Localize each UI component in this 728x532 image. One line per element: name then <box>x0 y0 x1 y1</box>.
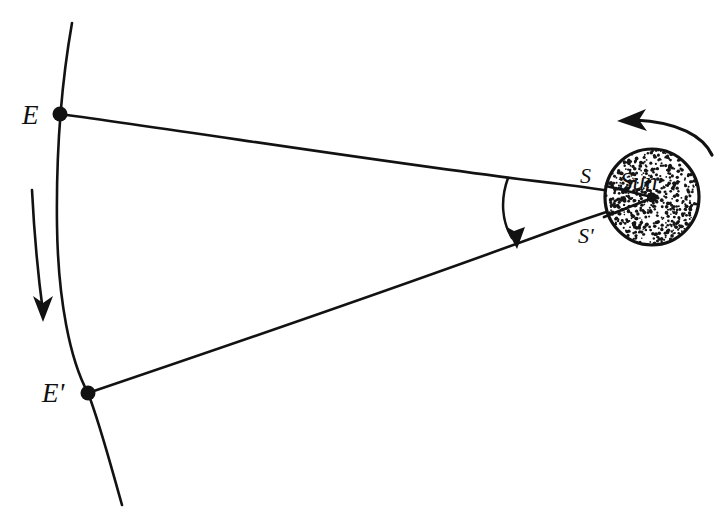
astronomy-diagram: E E' S S' Sun <box>0 0 728 532</box>
sun-body-group <box>604 149 699 246</box>
sun-stipple-dot <box>631 197 633 199</box>
sun-stipple-dot <box>664 186 666 188</box>
sun-stipple-dot <box>639 217 641 219</box>
sun-stipple-dot <box>661 205 664 208</box>
sun-stipple-dot <box>670 234 674 238</box>
sun-stipple-dot <box>623 165 625 167</box>
sun-stipple-dot <box>657 154 659 156</box>
sun-stipple-dot <box>679 208 682 211</box>
sun-stipple-dot <box>653 224 657 228</box>
label-earth-E: E <box>21 100 39 130</box>
sun-stipple-dot <box>649 207 651 209</box>
sun-stipple-dot <box>665 176 667 178</box>
sun-stipple-dot <box>671 175 673 177</box>
sun-stipple-dot <box>613 192 616 195</box>
sun-stipple-dot <box>649 209 653 213</box>
sun-stipple-dot <box>670 180 672 182</box>
sun-stipple-dot <box>626 230 629 233</box>
sun-stipple-dot <box>665 196 668 199</box>
sun-stipple-dot <box>645 223 648 226</box>
sun-stipple-dot <box>674 226 677 229</box>
earth-orbit-direction-arrow <box>32 190 53 322</box>
sun-stipple-dot <box>654 208 656 210</box>
sun-stipple-dot <box>648 225 651 228</box>
sun-stipple-dot <box>685 223 688 226</box>
sun-stipple-dot <box>688 211 691 214</box>
sun-stipple-dot <box>673 208 675 210</box>
sun-stipple-dot <box>673 195 676 198</box>
sun-stipple-dot <box>686 205 689 208</box>
sun-stipple-dot <box>609 201 612 204</box>
sun-stipple-dot <box>671 225 673 227</box>
sun-stipple-dot <box>672 229 674 231</box>
sun-stipple-dot <box>671 198 673 200</box>
sun-stipple-dot <box>690 217 692 219</box>
sun-stipple-dot <box>610 206 612 208</box>
sun-stipple-dot <box>660 240 662 242</box>
sun-stipple-dot <box>630 165 632 167</box>
sun-stipple-dot <box>661 224 664 227</box>
sun-stipple-dot <box>613 175 616 178</box>
sun-stipple-dot <box>677 199 679 201</box>
sun-stipple-dot <box>662 218 664 220</box>
sun-stipple-dot <box>687 175 690 178</box>
sun-stipple-dot <box>649 151 653 155</box>
earth-point-Eprime <box>81 386 96 401</box>
sun-stipple-dot <box>687 190 690 193</box>
sun-stipple-dot <box>665 205 669 209</box>
sun-stipple-dot <box>665 191 667 193</box>
earth-orbit-arc <box>57 23 122 505</box>
sun-stipple-dot <box>625 195 627 197</box>
sun-stipple-dot <box>617 218 619 220</box>
diagram-canvas: E E' S S' Sun <box>0 0 728 532</box>
sun-stipple-dot <box>636 235 638 237</box>
sun-stipple-dot <box>659 181 661 183</box>
sun-stipple-dot <box>656 239 659 242</box>
sun-stipple-dot <box>661 217 663 219</box>
sun-stipple-dot <box>692 189 694 191</box>
sun-stipple-dot <box>649 162 652 165</box>
sun-stipple-dot <box>669 190 672 193</box>
sun-stipple-dot <box>684 179 686 181</box>
sun-stipple-dot <box>678 205 680 207</box>
sun-stipple-dot <box>640 197 643 200</box>
parallax-angle-arc <box>503 178 525 249</box>
sun-stipple-dot <box>623 227 625 229</box>
sight-line-Eprime-to-Sprime-group <box>88 198 652 393</box>
sun-stipple-dot <box>688 186 690 188</box>
sun-stipple-dot <box>680 164 682 166</box>
sun-stipple-dot <box>645 229 648 232</box>
sun-stipple-dot <box>657 215 659 217</box>
sun-stipple-dot <box>663 202 665 204</box>
sun-stipple-dot <box>659 175 661 177</box>
sun-stipple-dot <box>619 222 622 225</box>
sun-stipple-dot <box>623 204 625 206</box>
sun-stipple-dot <box>669 159 672 162</box>
sun-stipple-dot <box>675 205 678 208</box>
sun-stipple-dot <box>623 198 626 201</box>
sun-stipple-dot <box>665 222 667 224</box>
sun-stipple-dot <box>634 161 636 163</box>
sun-stipple-dot <box>635 157 639 161</box>
sun-stipple-dot <box>612 202 615 205</box>
sun-stipple-dot <box>664 164 667 167</box>
sun-stipple-dot <box>644 161 646 163</box>
sun-stipple-dot <box>669 172 672 175</box>
sun-stipple-dot <box>663 185 665 187</box>
sun-stipple-dot <box>688 194 691 197</box>
sun-stipple-dot <box>676 209 679 212</box>
sun-stipple-dot <box>684 219 687 222</box>
sun-stipple-dot <box>680 173 683 176</box>
label-sun-point-S: S <box>580 163 591 188</box>
sun-stipple-dot <box>680 197 682 199</box>
sun-stipple-dot <box>675 186 678 189</box>
sun-stipple-dot <box>658 158 661 161</box>
sun-stipple-dot <box>622 221 624 223</box>
sun-stipple-dot <box>648 215 650 217</box>
sun-stipple-dot <box>665 234 667 236</box>
sun-stipple-dot <box>644 154 646 156</box>
sun-stipple-dot <box>672 232 674 234</box>
sun-stipple-dot <box>666 184 669 187</box>
sun-stipple-dot <box>669 176 671 178</box>
sun-stipple-dot <box>618 212 621 215</box>
